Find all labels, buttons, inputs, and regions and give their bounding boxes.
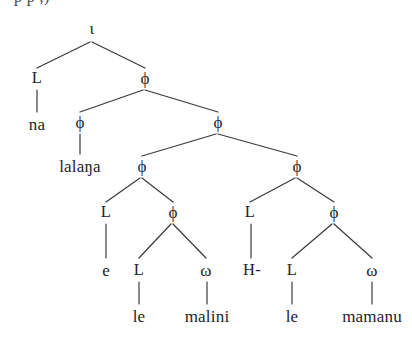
tree-node-leaf-n13: e bbox=[102, 262, 110, 279]
tree-node-tone-n17: L bbox=[287, 262, 297, 279]
tree-node-category-n7: ϕ bbox=[137, 158, 146, 175]
tree-node-leaf-n21: le bbox=[286, 308, 299, 325]
tree-edge-branch bbox=[142, 178, 173, 202]
tree-edge-branch bbox=[292, 224, 332, 258]
tree-edge-branch bbox=[173, 224, 206, 258]
tree-edge-branch bbox=[37, 42, 90, 68]
tree-node-category-n12: ϕ bbox=[329, 204, 338, 221]
cropped-caption-bleed: p p ,) bbox=[0, 0, 412, 11]
tree-node-leaf-n20: malini bbox=[185, 308, 230, 325]
tree-edge-branch bbox=[334, 224, 372, 258]
cropped-caption-text: p p ,) bbox=[14, 0, 50, 6]
tree-node-tone-n16: H- bbox=[243, 262, 261, 279]
tree-node-category-n15: ω bbox=[200, 262, 211, 279]
tree-node-tone-n11: L bbox=[245, 204, 255, 221]
tree-node-tone-n14: L bbox=[134, 262, 144, 279]
tree-node-category-n0: ι bbox=[90, 20, 95, 37]
tree-edge-branch bbox=[218, 134, 297, 156]
tree-node-category-n18: ω bbox=[366, 262, 377, 279]
tree-node-category-n2: ϕ bbox=[140, 70, 149, 87]
tree-node-leaf-n22: mamanu bbox=[342, 308, 402, 325]
tree-node-leaf-n3: na bbox=[29, 116, 45, 133]
tree-node-category-n10: ϕ bbox=[168, 204, 177, 221]
tree-node-category-n4: ϕ bbox=[75, 114, 84, 131]
tree-edge-branch bbox=[145, 90, 218, 112]
tree-node-tone-n1: L bbox=[32, 70, 42, 87]
tree-node-leaf-n19: le bbox=[133, 308, 146, 325]
tree-node-leaf-n6: lalaŋa bbox=[59, 158, 101, 175]
tree-edge-branch bbox=[250, 178, 295, 202]
tree-edge-branch bbox=[106, 178, 140, 202]
tree-node-category-n5: ϕ bbox=[213, 114, 222, 131]
tree-node-category-n8: ϕ bbox=[292, 158, 301, 175]
tree-node-tone-n9: L bbox=[101, 204, 111, 221]
tree-edge-branch bbox=[139, 224, 171, 258]
tree-edge-branch bbox=[142, 134, 216, 156]
tree-edge-branch bbox=[92, 42, 145, 68]
tree-edge-branch bbox=[80, 90, 143, 112]
tree-edge-branch bbox=[297, 178, 334, 202]
prosodic-tree-figure: p p ,) ιLϕnaϕϕlalaŋaϕϕLϕLϕeLωH-Lωlemalin… bbox=[0, 0, 412, 347]
